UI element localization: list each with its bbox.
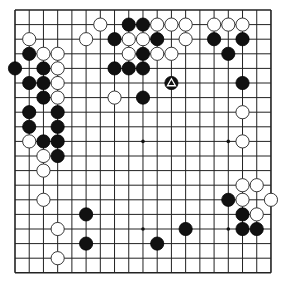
white-stone[interactable] xyxy=(179,18,192,31)
black-stone[interactable] xyxy=(51,120,64,133)
white-stone[interactable] xyxy=(136,33,149,46)
white-stone[interactable] xyxy=(151,47,164,60)
black-stone[interactable] xyxy=(151,33,164,46)
black-stone[interactable] xyxy=(80,237,93,250)
black-stone[interactable] xyxy=(179,222,192,235)
white-stone[interactable] xyxy=(236,106,249,119)
white-stone[interactable] xyxy=(179,33,192,46)
black-stone[interactable] xyxy=(236,33,249,46)
black-stone[interactable] xyxy=(250,222,263,235)
white-stone[interactable] xyxy=(80,33,93,46)
white-stone[interactable] xyxy=(23,33,36,46)
star-point xyxy=(227,140,231,144)
star-point xyxy=(227,227,231,231)
star-point xyxy=(141,227,145,231)
black-stone[interactable] xyxy=(51,135,64,148)
black-stone[interactable] xyxy=(23,47,36,60)
white-stone[interactable] xyxy=(236,179,249,192)
black-stone[interactable] xyxy=(51,149,64,162)
white-stone[interactable] xyxy=(51,91,64,104)
white-stone[interactable] xyxy=(51,62,64,75)
black-stone[interactable] xyxy=(8,62,21,75)
black-stone[interactable] xyxy=(236,208,249,221)
white-stone[interactable] xyxy=(264,193,277,206)
white-stone[interactable] xyxy=(151,18,164,31)
black-stone[interactable] xyxy=(108,62,121,75)
white-stone[interactable] xyxy=(236,135,249,148)
black-stone[interactable] xyxy=(222,47,235,60)
black-stone[interactable] xyxy=(23,120,36,133)
black-stone[interactable] xyxy=(207,33,220,46)
white-stone[interactable] xyxy=(37,164,50,177)
black-stone[interactable] xyxy=(37,76,50,89)
black-stone[interactable] xyxy=(136,91,149,104)
white-stone[interactable] xyxy=(37,47,50,60)
black-stone[interactable] xyxy=(23,76,36,89)
white-stone[interactable] xyxy=(37,149,50,162)
white-stone[interactable] xyxy=(236,18,249,31)
white-stone[interactable] xyxy=(250,179,263,192)
black-stone[interactable] xyxy=(37,91,50,104)
white-stone[interactable] xyxy=(37,193,50,206)
black-stone[interactable] xyxy=(236,76,249,89)
black-stone[interactable] xyxy=(236,222,249,235)
white-stone[interactable] xyxy=(236,193,249,206)
black-stone[interactable] xyxy=(37,135,50,148)
black-stone[interactable] xyxy=(136,47,149,60)
star-point xyxy=(141,140,145,144)
white-stone[interactable] xyxy=(108,91,121,104)
white-stone[interactable] xyxy=(51,47,64,60)
black-stone[interactable] xyxy=(222,193,235,206)
white-stone[interactable] xyxy=(94,18,107,31)
black-stone[interactable] xyxy=(51,106,64,119)
black-stone[interactable] xyxy=(122,18,135,31)
black-stone[interactable] xyxy=(122,62,135,75)
black-stone[interactable] xyxy=(80,208,93,221)
white-stone[interactable] xyxy=(122,47,135,60)
black-stone[interactable] xyxy=(23,106,36,119)
white-stone[interactable] xyxy=(122,33,135,46)
white-stone[interactable] xyxy=(165,47,178,60)
white-stone[interactable] xyxy=(23,135,36,148)
white-stone[interactable] xyxy=(165,18,178,31)
white-stone[interactable] xyxy=(207,18,220,31)
white-stone[interactable] xyxy=(250,208,263,221)
white-stone[interactable] xyxy=(51,252,64,265)
white-stone[interactable] xyxy=(51,222,64,235)
go-board[interactable] xyxy=(0,0,287,286)
black-stone[interactable] xyxy=(151,237,164,250)
black-stone[interactable] xyxy=(37,62,50,75)
black-stone[interactable] xyxy=(136,62,149,75)
black-stone[interactable] xyxy=(136,18,149,31)
white-stone[interactable] xyxy=(51,76,64,89)
white-stone[interactable] xyxy=(222,18,235,31)
black-stone[interactable] xyxy=(108,33,121,46)
